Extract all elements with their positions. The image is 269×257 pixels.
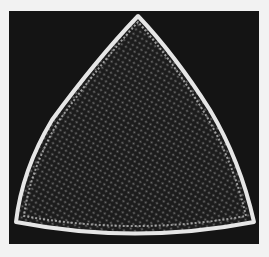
diatom-valve — [0, 0, 269, 257]
diatom-illustration — [0, 0, 269, 257]
